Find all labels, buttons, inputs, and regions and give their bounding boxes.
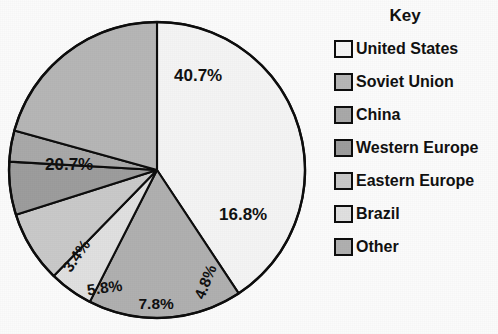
- legend-item-label: China: [356, 107, 400, 123]
- legend: Key United StatesSoviet UnionChinaWester…: [334, 6, 498, 326]
- legend-item-label: United States: [356, 41, 458, 57]
- legend-swatch-icon: [334, 106, 353, 124]
- legend-rows: United StatesSoviet UnionChinaWestern Eu…: [334, 32, 498, 263]
- pie-chart-figure: Share of World Total 40.7%16.8%4.8%7.8%5…: [0, 0, 498, 334]
- legend-item-label: Eastern Europe: [356, 173, 474, 189]
- legend-swatch-icon: [334, 40, 353, 58]
- legend-title: Key: [334, 6, 498, 26]
- legend-item-label: Western Europe: [356, 140, 478, 156]
- legend-swatch-icon: [334, 238, 353, 256]
- pie-slice-label: 20.7%: [45, 155, 93, 175]
- pie-slice-label: 40.7%: [174, 66, 222, 86]
- legend-item-label: Soviet Union: [356, 74, 454, 90]
- legend-item[interactable]: Brazil: [334, 197, 498, 230]
- legend-item[interactable]: Eastern Europe: [334, 164, 498, 197]
- legend-swatch-icon: [334, 73, 353, 91]
- legend-swatch-icon: [334, 139, 353, 157]
- pie-slice-label: 16.8%: [219, 205, 267, 225]
- legend-swatch-icon: [334, 172, 353, 190]
- pie-slice-label: 7.8%: [139, 295, 174, 313]
- legend-item[interactable]: Soviet Union: [334, 65, 498, 98]
- legend-item[interactable]: Other: [334, 230, 498, 263]
- legend-item-label: Other: [356, 239, 399, 255]
- legend-item[interactable]: Western Europe: [334, 131, 498, 164]
- pie-plot-area: 40.7%16.8%4.8%7.8%5.8%3.4%20.7%: [0, 0, 330, 334]
- legend-item-label: Brazil: [356, 206, 400, 222]
- legend-item[interactable]: United States: [334, 32, 498, 65]
- legend-swatch-icon: [334, 205, 353, 223]
- legend-item[interactable]: China: [334, 98, 498, 131]
